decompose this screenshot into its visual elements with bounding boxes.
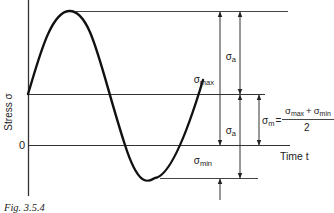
stress-cycle-diagram: Stress σ 0 Time t σmax σa σa σmin σm= σm… bbox=[0, 0, 334, 213]
y-axis-label: Stress σ bbox=[3, 93, 14, 131]
sigma-min-label: σmin bbox=[194, 155, 212, 168]
sigma-max-label: σmax bbox=[194, 74, 215, 87]
x-axis-label: Time t bbox=[280, 150, 309, 162]
sigma-a-upper-label: σa bbox=[226, 51, 237, 64]
mean-stress-formula: σm= σmax+σmin 2 bbox=[262, 105, 334, 133]
formula-denominator: 2 bbox=[304, 122, 310, 133]
zero-label: 0 bbox=[19, 139, 25, 151]
sigma-m-label: σm= bbox=[262, 115, 281, 128]
sigma-a-lower-label: σa bbox=[226, 125, 237, 138]
formula-numerator: σmax+σmin bbox=[285, 105, 331, 117]
stress-curve bbox=[28, 11, 203, 181]
figure-caption: Fig. 3.5.4 bbox=[3, 202, 46, 213]
